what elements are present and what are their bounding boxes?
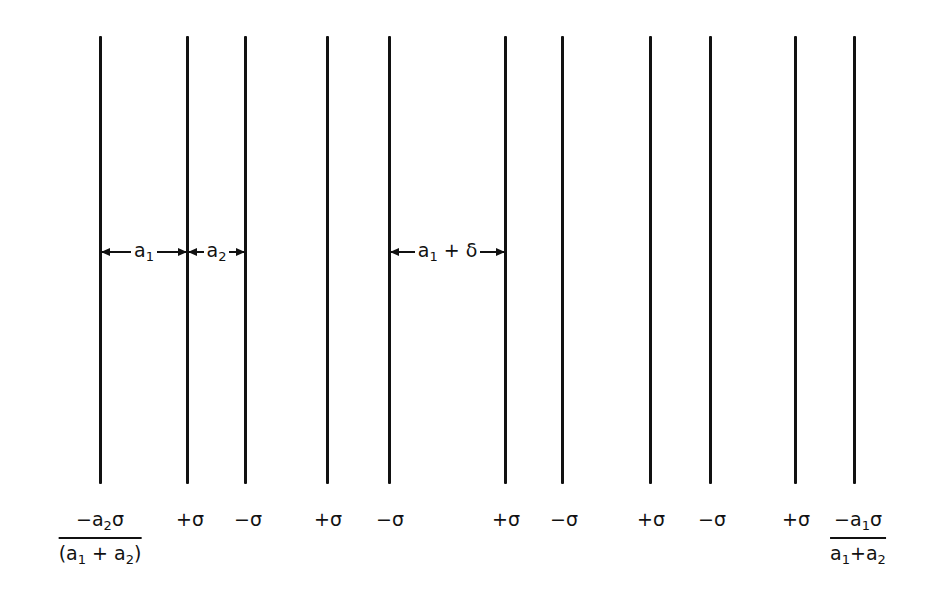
arrow-left-icon [390, 251, 415, 253]
plane-line-11 [853, 36, 856, 484]
arrow-left-icon [188, 251, 204, 253]
arrow-right-icon [229, 251, 245, 253]
fraction-denominator: a1+a2 [830, 539, 886, 566]
dimension-label: a1 + δ [415, 241, 481, 263]
plane-line-9 [709, 36, 712, 484]
plane-line-10 [794, 36, 797, 484]
dimension-label: a2 [204, 241, 230, 263]
charge-label-left-fraction: −a2σ (a1 + a2) [59, 510, 142, 566]
fraction-denominator: (a1 + a2) [59, 539, 142, 566]
dimension-a2: a2 [188, 242, 245, 262]
dimension-a1-plus-delta: a1 + δ [390, 242, 505, 262]
plane-line-4 [326, 36, 329, 484]
dimension-label: a1 [131, 241, 157, 263]
charge-label: −σ [550, 510, 578, 529]
plane-line-8 [649, 36, 652, 484]
fraction-numerator: −a2σ [59, 510, 142, 539]
arrow-right-icon [157, 251, 187, 253]
charge-label: +σ [782, 510, 810, 529]
charge-label: +σ [176, 510, 204, 529]
charge-label: −σ [376, 510, 404, 529]
fraction-numerator: −a1σ [830, 510, 886, 539]
charge-label: +σ [314, 510, 342, 529]
charge-label: +σ [492, 510, 520, 529]
plane-line-7 [561, 36, 564, 484]
charge-label: −σ [698, 510, 726, 529]
charge-label: −σ [234, 510, 262, 529]
arrow-left-icon [101, 251, 131, 253]
arrow-right-icon [480, 251, 505, 253]
charge-label-right-fraction: −a1σ a1+a2 [830, 510, 886, 566]
dimension-a1: a1 [101, 242, 187, 262]
charge-label: +σ [637, 510, 665, 529]
